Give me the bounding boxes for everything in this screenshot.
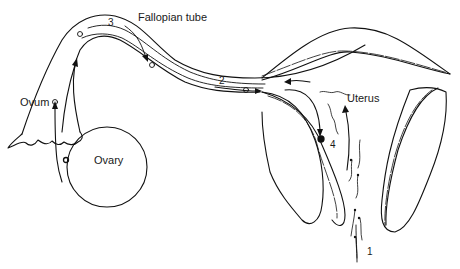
sperm-squiggle: [356, 175, 358, 198]
arrowhead: [284, 78, 291, 85]
fimbriae: [8, 132, 82, 148]
reproductive-tract-diagram: Fallopian tube Ovum Ovary Uterus 1 2 3 4: [0, 0, 460, 269]
uterus-label: Uterus: [347, 93, 379, 104]
step-number-2: 2: [219, 76, 225, 86]
sperm-head: [358, 217, 360, 219]
uterus-left-wall-inner-1: [262, 92, 345, 225]
step-number-3: 3: [108, 18, 114, 28]
sperm-head: [354, 236, 356, 238]
arrow-uterus-back: [290, 80, 310, 82]
sperm-squiggle: [349, 160, 352, 181]
step-number-4: 4: [330, 140, 336, 150]
uterus-left-wall-outer: [262, 92, 323, 224]
arrowhead: [255, 88, 262, 94]
arrow-fimbria-up: [62, 65, 75, 132]
uterus-fundus-lumen: [262, 51, 448, 76]
sperm-squiggle: [320, 91, 350, 95]
step-number-1: 1: [367, 247, 373, 257]
uterus-right-wall-lumen: [385, 90, 432, 226]
sperm-head: [357, 174, 359, 176]
arrow-uterus-curve: [285, 90, 320, 130]
ovum-implanted: [318, 136, 324, 142]
arrow-sperm-up: [346, 112, 349, 170]
sperm-head: [350, 159, 352, 161]
fallopian-tube-lumen-upper: [88, 25, 265, 84]
ovary-shape: [67, 127, 147, 207]
sperm-head: [354, 209, 356, 211]
sperm-squiggle: [328, 104, 338, 134]
ovum-in-tube: [150, 63, 155, 68]
arrowhead: [72, 58, 78, 67]
arrowhead: [342, 105, 349, 113]
sperm-squiggle: [360, 218, 362, 240]
sperm-squiggle: [358, 140, 360, 168]
fallopian-tube-inner-wall: [73, 36, 260, 132]
sperm-squiggle: [351, 210, 355, 236]
ovary-label: Ovary: [94, 155, 123, 166]
fallopian-tube-label: Fallopian tube: [138, 12, 207, 23]
diagram-drawing: [0, 0, 460, 269]
ovum-label: Ovum: [20, 97, 49, 108]
ovum-in-tube-3: [78, 32, 83, 37]
fallopian-tube-lumen-lower: [82, 34, 263, 88]
uterus-right-wall-inner: [386, 88, 438, 225]
